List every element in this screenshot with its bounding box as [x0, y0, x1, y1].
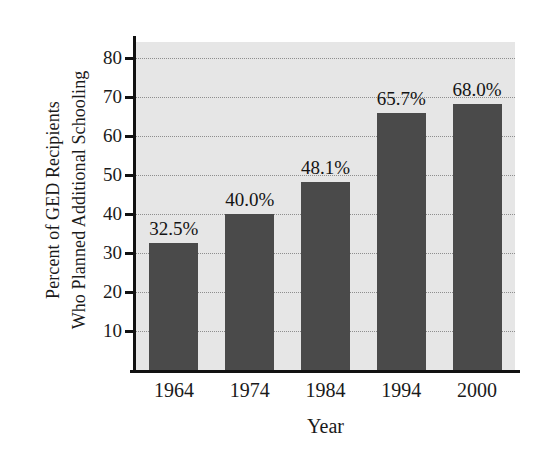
y-tick-label-text: 50	[86, 165, 122, 184]
y-tick-label-text: 60	[86, 126, 122, 145]
x-axis-line	[130, 370, 520, 373]
bar	[377, 113, 426, 370]
y-tick-label: 50	[82, 165, 122, 184]
y-tick-label: 20	[82, 282, 122, 301]
y-tick-label: 30	[82, 243, 122, 262]
x-tick-label: 2000	[432, 379, 522, 401]
bar-value-label: 32.5%	[129, 219, 219, 238]
bar-value-label: 68.0%	[432, 80, 522, 99]
bar	[225, 214, 274, 370]
gridline	[136, 58, 515, 59]
y-tick-label-text: 30	[86, 243, 122, 262]
y-tick-label: 60	[82, 126, 122, 145]
y-tick-label: 70	[82, 87, 122, 106]
y-axis-line	[133, 36, 136, 373]
y-tick-label: 40	[82, 204, 122, 223]
y-tick-label-text: 20	[86, 282, 122, 301]
y-axis-title-line-1: Percent of GED Recipients	[40, 71, 66, 330]
y-tick-label-text: 80	[86, 48, 122, 67]
bar	[453, 104, 502, 370]
bar	[149, 243, 198, 370]
y-tick-label-text: 40	[86, 204, 122, 223]
x-axis-title: Year	[136, 415, 515, 437]
y-tick-label-text: 70	[86, 87, 122, 106]
bar-value-label: 48.1%	[281, 158, 371, 177]
bar	[301, 182, 350, 370]
plot-area: 32.5%40.0%48.1%65.7%68.0%	[136, 42, 515, 370]
y-tick-label: 10	[82, 321, 122, 340]
y-tick-label-text: 10	[86, 321, 122, 340]
bar-value-label: 40.0%	[205, 190, 295, 209]
bar-chart-figure: Percent of GED Recipients Who Planned Ad…	[0, 0, 541, 457]
y-tick-label: 80	[82, 48, 122, 67]
